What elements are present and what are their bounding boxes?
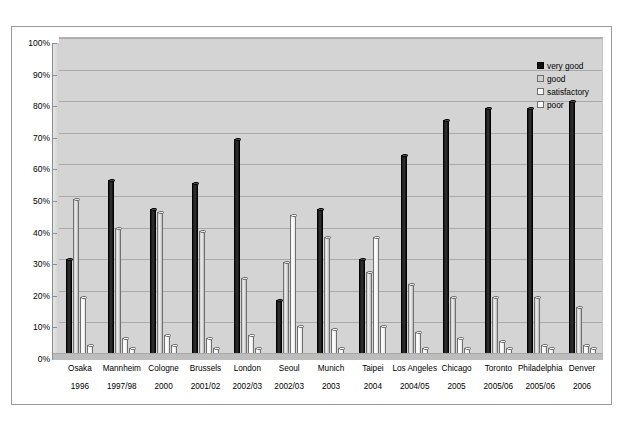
y-axis-tick-label: 60%	[12, 164, 50, 174]
bar	[492, 297, 498, 354]
bar-cap	[109, 179, 115, 182]
bar	[569, 101, 575, 354]
bar-cap	[249, 334, 255, 337]
bar-group	[226, 38, 268, 354]
x-axis-category-label: Taipei2004	[362, 365, 383, 391]
bar	[283, 262, 289, 354]
bar-cap	[507, 347, 513, 350]
bar	[380, 326, 386, 354]
legend-item[interactable]: good	[537, 72, 607, 85]
bar-cap	[298, 325, 304, 328]
bar	[373, 237, 379, 354]
legend-item-label: poor	[547, 100, 564, 110]
legend-item[interactable]: very good	[537, 59, 607, 72]
x-axis-city-name: Munich	[318, 364, 344, 373]
bar-cap	[214, 347, 220, 350]
plot-floor	[53, 353, 603, 360]
bar-group	[185, 38, 227, 354]
bar-cap	[465, 347, 471, 350]
y-axis-tick-label: 0%	[12, 354, 50, 364]
bar	[324, 237, 330, 354]
bar	[485, 108, 491, 354]
y-axis-tick-mark	[52, 75, 57, 76]
y-axis-tick-mark	[52, 264, 57, 265]
y-axis-tick-label: 80%	[12, 101, 50, 111]
bar-cap	[325, 236, 331, 239]
bar	[248, 335, 254, 354]
bar-cap	[242, 277, 248, 280]
bar	[450, 297, 456, 354]
bar	[534, 297, 540, 354]
x-axis-city-name: Seoul	[279, 364, 300, 373]
y-axis-tick-mark	[52, 169, 57, 170]
x-axis-city-name: London	[234, 364, 261, 373]
bar-cap	[74, 198, 80, 201]
bar-cap	[584, 344, 590, 347]
bar-group	[477, 38, 519, 354]
x-axis-year-label: 2005/06	[518, 383, 563, 392]
bar	[234, 139, 240, 354]
bar	[408, 284, 414, 354]
bar-cap	[165, 334, 171, 337]
legend-item[interactable]: satisfactory	[537, 85, 607, 98]
bar	[150, 209, 156, 354]
bar-cap	[542, 344, 548, 347]
bar-cap	[235, 138, 241, 141]
y-axis-tick-mark	[52, 201, 57, 202]
x-axis-category-label: Seoul2002/03	[274, 365, 304, 391]
y-axis-tick-mark	[52, 106, 57, 107]
y-axis-tick-mark	[52, 233, 57, 234]
bar-group	[268, 38, 310, 354]
bar	[115, 228, 121, 354]
bar-cap	[374, 236, 380, 239]
bar	[66, 259, 72, 354]
bar	[206, 338, 212, 354]
bar-cap	[416, 331, 422, 334]
x-axis-year-label: 2002/03	[274, 383, 304, 392]
x-axis-year-label: 2004/05	[392, 383, 437, 392]
bar	[157, 212, 163, 354]
x-axis-year-label: 2005/06	[484, 383, 514, 392]
x-axis-city-name: Mannheim	[103, 364, 141, 373]
bar-cap	[528, 107, 534, 110]
bar-cap	[172, 344, 178, 347]
legend-item[interactable]: poor	[537, 98, 607, 111]
legend-swatch-icon	[537, 62, 544, 69]
bar-cap	[256, 347, 262, 350]
x-axis-category-label: Osaka1996	[68, 365, 92, 391]
bar	[317, 209, 323, 354]
bar	[73, 199, 79, 354]
bar-cap	[486, 107, 492, 110]
plot-area	[59, 37, 603, 353]
y-axis-tick-label: 30%	[12, 259, 50, 269]
x-axis-category-label: Toronto2005/06	[484, 365, 514, 391]
y-axis-tick-label: 100%	[12, 38, 50, 48]
x-axis-city-name: Toronto	[485, 364, 512, 373]
bar-cap	[591, 347, 597, 350]
bar-cap	[444, 119, 450, 122]
x-axis-year-label: 2003	[318, 383, 344, 392]
chart-frame: 10%20%30%40%50%60%70%80%90%100%0% Osaka1…	[11, 26, 612, 405]
bar-cap	[409, 283, 415, 286]
x-axis-city-name: Los Angeles	[392, 364, 437, 373]
x-axis-category-label: Los Angeles2004/05	[392, 365, 437, 391]
bar-cap	[493, 296, 499, 299]
bar	[359, 259, 365, 354]
bar	[290, 215, 296, 354]
x-axis-city-name: Chicago	[442, 364, 472, 373]
bar	[297, 326, 303, 354]
y-axis-tick-label: 50%	[12, 196, 50, 206]
bar-group	[436, 38, 478, 354]
bar	[401, 155, 407, 354]
bar	[527, 108, 533, 354]
y-axis-tick-label: 40%	[12, 228, 50, 238]
x-axis-category-label: London2002/03	[232, 365, 262, 391]
x-axis-city-name: Osaka	[68, 364, 92, 373]
x-axis-year-label: 2006	[569, 383, 595, 392]
bar	[164, 335, 170, 354]
y-axis-tick-label: 70%	[12, 133, 50, 143]
y-axis-tick-label: 90%	[12, 70, 50, 80]
bar-cap	[193, 182, 199, 185]
bar-cap	[577, 306, 583, 309]
x-axis-year-label: 2001/02	[190, 383, 221, 392]
